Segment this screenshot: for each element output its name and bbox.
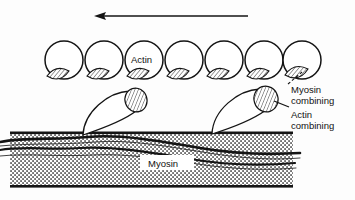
myosin-label: Myosin	[148, 158, 178, 169]
figure-root: Actin Myosin	[0, 0, 355, 200]
myosin-filament-bottom-edge	[10, 185, 293, 188]
actin-combining-label-line2: combining	[291, 120, 334, 131]
myosin-head-right	[212, 83, 281, 134]
myosin-head-left	[83, 85, 150, 135]
actin-label: Actin	[131, 54, 152, 65]
myosin-combining-label-line2: combining	[291, 95, 334, 106]
myosin-combining-label-line1: Myosin	[291, 84, 321, 95]
actin-monomer	[205, 41, 243, 79]
actin-monomer	[45, 41, 83, 79]
direction-arrow-group	[94, 12, 248, 20]
actin-filament: Actin	[45, 41, 321, 79]
actin-monomer	[165, 41, 203, 79]
actin-combining-label: Actin combining	[291, 109, 334, 131]
actin-monomer	[245, 41, 283, 79]
actin-monomer	[283, 41, 321, 79]
actin-monomer	[85, 41, 123, 79]
myosin-combining-label: Myosin combining	[291, 84, 334, 106]
myosin-filament: Myosin	[0, 132, 300, 188]
actin-combining-label-line1: Actin	[291, 109, 312, 120]
cross-bridge-diagram: Actin Myosin	[0, 0, 355, 200]
myosin-filament-top-edge	[10, 132, 293, 135]
